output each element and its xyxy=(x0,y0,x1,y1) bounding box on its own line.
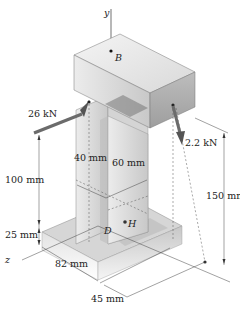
dim-25mm: 25 mm xyxy=(5,229,38,240)
dim-60mm: 60 mm xyxy=(112,157,145,168)
diagram-canvas: y B H D xyxy=(0,0,240,312)
point-d-label: D xyxy=(103,225,112,236)
dim-45mm: 45 mm xyxy=(91,293,124,304)
dim-150mm: 150 mm xyxy=(206,190,240,201)
z-axis-label: z xyxy=(4,254,11,265)
y-axis-label: y xyxy=(103,7,110,18)
dim-100mm: 100 mm xyxy=(5,174,44,185)
svg-text:H: H xyxy=(127,218,137,229)
load-26kn-label: 26 kN xyxy=(28,108,57,119)
dim-82mm: 82 mm xyxy=(55,258,88,269)
svg-text:B: B xyxy=(114,52,122,63)
dim-40mm: 40 mm xyxy=(74,152,107,163)
load-2-2kn-label: 2.2 kN xyxy=(185,137,217,148)
